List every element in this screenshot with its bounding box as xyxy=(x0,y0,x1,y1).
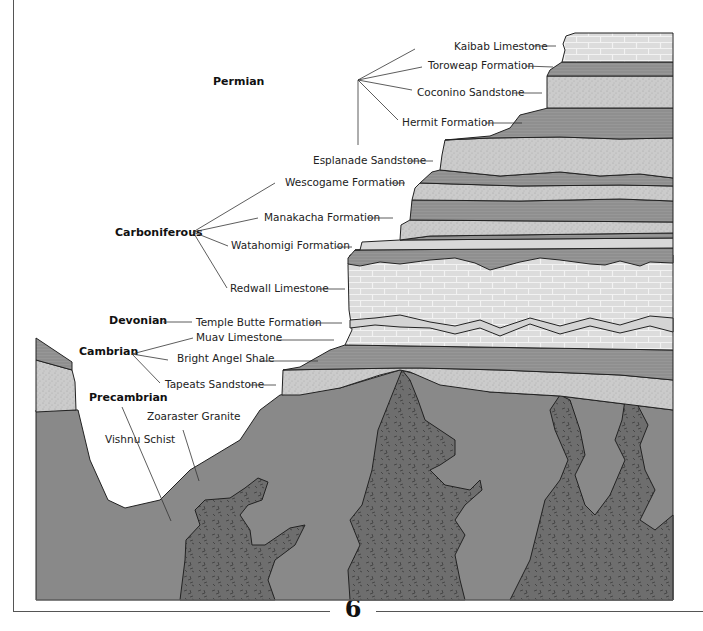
label-zoaraster-granite: Zoaraster Granite xyxy=(147,410,241,422)
kaibab-limestone-layer xyxy=(562,33,673,62)
esplanade-sandstone-layer xyxy=(440,137,673,178)
label-bright-angel-shale: Bright Angel Shale xyxy=(177,352,275,364)
label-temple-butte-formation: Temple Butte Formation xyxy=(195,316,322,328)
era-label-carboniferous: Carboniferous xyxy=(115,226,203,239)
label-redwall-limestone: Redwall Limestone xyxy=(230,282,329,294)
era-label-permian: Permian xyxy=(213,75,264,88)
redwall-limestone-layer xyxy=(345,255,673,350)
era-label-cambrian: Cambrian xyxy=(79,345,138,358)
label-coconino-sandstone: Coconino Sandstone xyxy=(417,86,525,98)
label-hermit-formation: Hermit Formation xyxy=(402,116,494,128)
era-label-precambrian: Precambrian xyxy=(89,391,168,404)
grand-canyon-strata-diagram: Permian Carboniferous Devonian Cambrian … xyxy=(0,0,703,631)
era-label-devonian: Devonian xyxy=(109,314,167,327)
label-muav-limestone: Muav Limestone xyxy=(196,331,282,343)
carboniferous-leader-lines xyxy=(193,183,275,288)
label-manakacha-formation: Manakacha Formation xyxy=(264,211,380,223)
toroweap-formation-layer xyxy=(547,62,673,76)
manakacha-formation-shale xyxy=(410,199,673,222)
label-tapeats-sandstone: Tapeats Sandstone xyxy=(164,378,264,390)
label-wescogame-formation: Wescogame Formation xyxy=(285,176,405,188)
label-vishnu-schist: Vishnu Schist xyxy=(105,433,175,445)
label-toroweap-formation: Toroweap Formation xyxy=(427,59,534,71)
permian-leader-lines xyxy=(358,49,422,145)
label-esplanade-sandstone: Esplanade Sandstone xyxy=(313,154,426,166)
coconino-sandstone-layer xyxy=(547,76,673,108)
label-watahomigi-formation: Watahomigi Formation xyxy=(231,239,350,251)
